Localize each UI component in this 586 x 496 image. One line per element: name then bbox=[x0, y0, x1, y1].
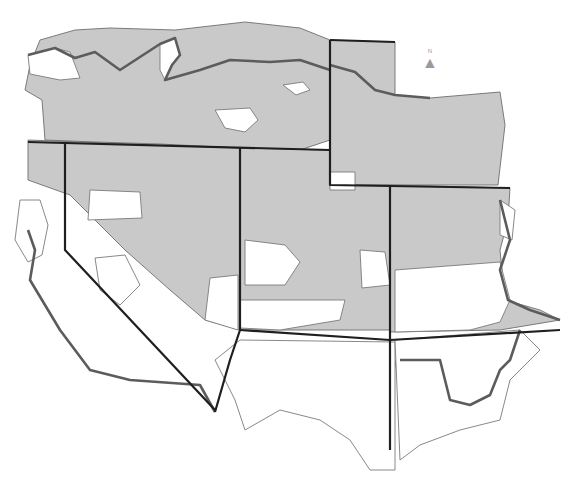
north-arrow-glyph: ▲ bbox=[422, 54, 438, 71]
county-map: N ▲ bbox=[0, 0, 586, 496]
map-canvas bbox=[0, 0, 586, 496]
unshaded-county bbox=[95, 255, 140, 305]
unshaded-county bbox=[215, 340, 395, 470]
unshaded-county bbox=[15, 200, 48, 262]
unshaded-county bbox=[205, 275, 238, 330]
north-arrow-icon: N ▲ bbox=[420, 48, 440, 76]
unshaded-county bbox=[395, 262, 510, 332]
unshaded-county bbox=[330, 172, 355, 190]
unshaded-county bbox=[395, 330, 540, 460]
shaded-county bbox=[330, 40, 505, 185]
unshaded-county bbox=[88, 190, 142, 220]
unshaded-county bbox=[360, 250, 390, 288]
